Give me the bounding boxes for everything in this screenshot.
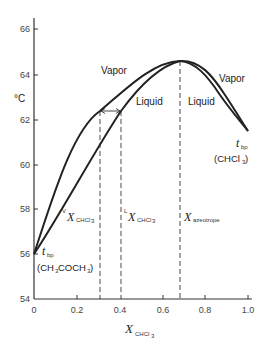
- label-vapor-composition: V X CHCl 3: [62, 208, 95, 224]
- y-tick-54: 54: [20, 294, 30, 304]
- label-vapor-right: Vapor: [219, 73, 246, 84]
- tie-line: [101, 109, 120, 114]
- svg-text:bp: bp: [241, 144, 248, 150]
- y-tick-60: 60: [20, 160, 30, 170]
- x-tick-0.6: 0.6: [157, 305, 170, 315]
- svg-text:3: 3: [152, 218, 156, 224]
- svg-text:CHCl: CHCl: [76, 217, 90, 223]
- svg-text:(CHCl: (CHCl: [214, 153, 240, 164]
- svg-text:CHCl: CHCl: [135, 331, 149, 337]
- svg-text:CHCl: CHCl: [137, 217, 151, 223]
- x-axis-label: X CHCl 3: [124, 321, 155, 339]
- x-tick-0: 0: [31, 305, 36, 315]
- svg-text:(CH: (CH: [37, 262, 54, 273]
- label-azeotrope-composition: X azeotrope: [183, 210, 220, 224]
- svg-text:X: X: [183, 210, 192, 224]
- label-liquid-left: Liquid: [136, 96, 163, 107]
- y-tick-56: 56: [20, 249, 30, 259]
- label-bp-acetone: t bp (CH 3 COCH 3 ): [37, 244, 93, 274]
- svg-text:X: X: [66, 210, 75, 224]
- x-tick-0.8: 0.8: [199, 305, 212, 315]
- y-tick-58: 58: [20, 204, 30, 214]
- svg-text:azeotrope: azeotrope: [193, 217, 220, 223]
- svg-text:): ): [245, 153, 248, 164]
- svg-text:): ): [90, 262, 93, 273]
- svg-text:X: X: [124, 321, 134, 336]
- phase-diagram-chart: 66 64 62 60 58 56 54 °C 0 0.2 0.4 0.6 0.…: [0, 0, 274, 345]
- y-tick-66: 66: [20, 24, 30, 34]
- y-tick-64: 64: [20, 70, 30, 80]
- x-tick-0.4: 0.4: [114, 305, 127, 315]
- label-bp-chloroform: t bp (CHCl 3 ): [214, 136, 248, 165]
- x-tick-labels: 0 0.2 0.4 0.6 0.8 1.0: [31, 305, 254, 315]
- y-tick-62: 62: [20, 115, 30, 125]
- svg-text:bp: bp: [47, 252, 54, 258]
- svg-text:t: t: [42, 244, 46, 258]
- label-vapor-left: Vapor: [101, 65, 128, 76]
- svg-text:COCH: COCH: [58, 262, 86, 273]
- svg-text:t: t: [236, 136, 240, 150]
- y-tick-labels: 66 64 62 60 58 56 54: [20, 24, 30, 304]
- svg-text:V: V: [62, 208, 66, 214]
- label-liquid-composition: L X CHCl 3: [124, 208, 156, 224]
- svg-text:3: 3: [91, 218, 95, 224]
- x-tick-0.2: 0.2: [71, 305, 84, 315]
- svg-text:X: X: [127, 210, 136, 224]
- x-tick-1.0: 1.0: [242, 305, 255, 315]
- svg-text:3: 3: [151, 333, 155, 339]
- y-axis-unit: °C: [14, 93, 25, 104]
- label-liquid-right: Liquid: [188, 96, 215, 107]
